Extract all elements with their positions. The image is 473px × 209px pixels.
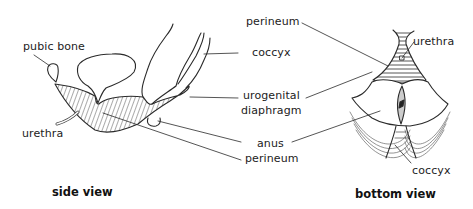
label-coccyx-side: coccyx <box>252 46 291 59</box>
leader-urogenital <box>190 97 238 98</box>
label-anus: anus <box>257 137 284 150</box>
pelvic-floor-diagram: pubic bone urethra coccyx urogenital dia… <box>0 0 473 209</box>
label-perineum-bottom: perineum <box>246 15 300 28</box>
caption-bottom-view: bottom view <box>355 187 436 201</box>
leader-coccyx-bottom <box>395 145 411 163</box>
pubic-bone <box>48 64 59 82</box>
label-urogenital-line1: urogenital <box>243 89 300 102</box>
leader-anus <box>158 121 241 142</box>
leader-perineum-bottom <box>302 23 388 66</box>
leader-coccyx <box>204 53 238 54</box>
urethra-tube <box>57 112 78 124</box>
label-perineum-side: perineum <box>245 152 299 165</box>
label-coccyx-bottom: coccyx <box>412 164 451 177</box>
label-urogenital-line2: diaphragm <box>241 104 302 117</box>
label-urethra-side: urethra <box>22 127 63 140</box>
diagram-artwork <box>0 0 473 209</box>
caption-side-view: side view <box>52 185 113 199</box>
rectum <box>142 24 173 97</box>
leader-pubic-bone <box>34 55 50 66</box>
label-pubic-bone: pubic bone <box>23 40 85 53</box>
anal-sphincter <box>147 118 160 126</box>
label-urethra-bottom: urethra <box>413 35 454 48</box>
leader-anus-bottom <box>292 111 380 142</box>
coccyx-curve <box>178 33 204 84</box>
